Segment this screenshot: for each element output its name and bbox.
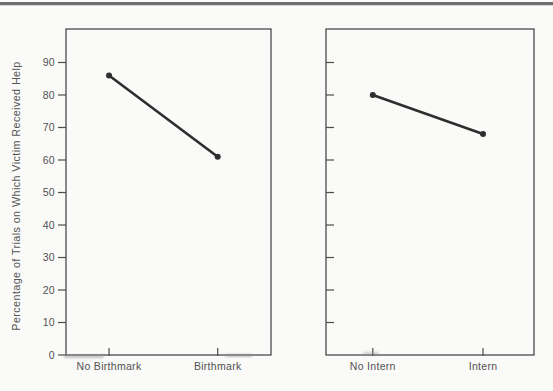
data-line [109, 76, 218, 157]
y-tick-label: 50 [43, 186, 55, 198]
plot-frame [66, 29, 271, 355]
two-panel-line-chart: Percentage of Trials on Which Victim Rec… [0, 0, 553, 391]
y-tick-label: 10 [43, 316, 55, 328]
x-tick-label: Birthmark [194, 360, 242, 372]
y-axis-title: Percentage of Trials on Which Victim Rec… [10, 61, 22, 330]
y-tick-label: 70 [43, 121, 55, 133]
data-point [370, 92, 376, 98]
scanned-figure-page: Percentage of Trials on Which Victim Rec… [0, 0, 553, 391]
y-tick-label: 40 [43, 219, 55, 231]
y-tick-label: 90 [43, 56, 55, 68]
y-tick-label: 80 [43, 89, 55, 101]
x-tick-label: No Intern [350, 360, 396, 372]
data-line [373, 95, 483, 134]
panel-right: No InternIntern [326, 29, 534, 372]
plot-frame [326, 29, 534, 355]
scan-artifact [64, 355, 104, 358]
scan-artifact [225, 354, 252, 357]
scan-artifact [363, 352, 379, 355]
y-tick-label: 30 [43, 251, 55, 263]
data-point [480, 131, 486, 137]
data-point [215, 154, 221, 160]
x-tick-label: No Birthmark [77, 360, 142, 372]
y-tick-label: 0 [49, 349, 55, 361]
y-tick-label: 20 [43, 284, 55, 296]
x-tick-label: Intern [469, 360, 498, 372]
data-point [106, 73, 112, 79]
panel-left: 0102030405060708090No BirthmarkBirthmark [43, 29, 271, 372]
y-tick-label: 60 [43, 154, 55, 166]
